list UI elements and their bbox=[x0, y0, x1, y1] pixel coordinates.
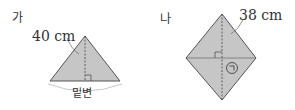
triangle-figure bbox=[48, 36, 122, 91]
rhombus-figure bbox=[186, 14, 256, 100]
measure-label-ga: 40 cm bbox=[32, 29, 75, 43]
figure-label-na: 나 bbox=[160, 13, 171, 25]
measure-label-na: 38 cm bbox=[239, 8, 282, 22]
figure-label-ga: 가 bbox=[12, 12, 23, 24]
base-label: 밑변 bbox=[72, 88, 92, 99]
